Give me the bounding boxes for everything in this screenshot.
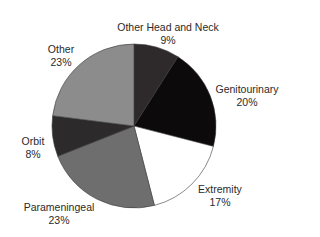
label-pct: 23% xyxy=(24,214,95,227)
label-orbit: Orbit 8% xyxy=(22,135,45,160)
label-genitourinary: Genitourinary 20% xyxy=(215,83,278,108)
label-other-head-and-neck: Other Head and Neck 9% xyxy=(117,21,219,46)
label-extremity: Extremity 17% xyxy=(198,183,242,208)
label-pct: 20% xyxy=(215,96,278,109)
label-pct: 23% xyxy=(48,56,74,69)
label-pct: 9% xyxy=(117,34,219,47)
label-parameningeal: Parameningeal 23% xyxy=(24,201,95,226)
label-name: Orbit xyxy=(22,135,45,148)
label-pct: 17% xyxy=(198,196,242,209)
label-name: Genitourinary xyxy=(215,83,278,96)
label-name: Extremity xyxy=(198,183,242,196)
label-name: Other xyxy=(48,43,74,56)
label-name: Other Head and Neck xyxy=(117,21,219,34)
label-pct: 8% xyxy=(22,148,45,161)
label-name: Parameningeal xyxy=(24,201,95,214)
label-other: Other 23% xyxy=(48,43,74,68)
